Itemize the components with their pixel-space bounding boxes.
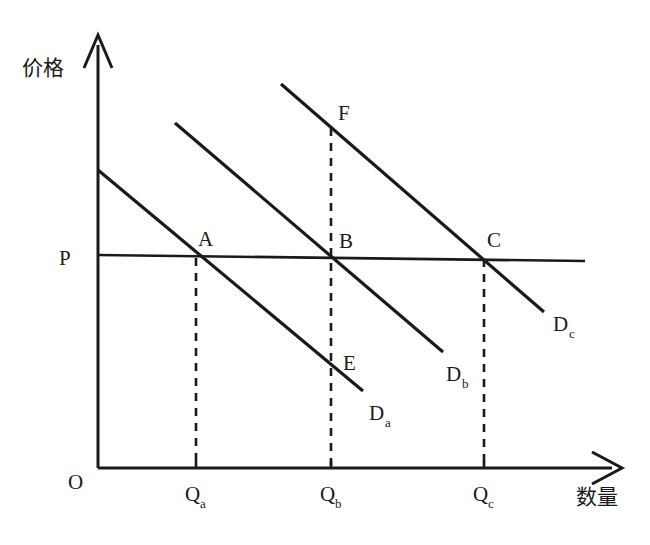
y-axis-label: 价格 [22,56,64,80]
tick-label-qb-base: Q [320,482,335,506]
tick-label-qb: Q b [320,482,342,511]
tick-label-qa: Q a [185,482,206,511]
demand-curve-group [98,84,544,391]
demand-curve-da [98,170,363,391]
point-label-e: E [343,351,356,375]
curve-label-dc-base: D [553,312,568,336]
tick-label-qb-subscript: b [335,496,342,511]
curve-label-dc: D c [553,312,575,341]
demand-curve-db [175,123,443,352]
point-label-f: F [338,101,350,125]
point-label-b: B [339,229,353,253]
demand-curve-dc [281,84,544,312]
curve-label-db-base: D [446,362,461,386]
chart-canvas: 价格 数量 O P Q a Q b Q c A B C E F D a D b [0,0,650,545]
point-label-c: C [487,228,501,252]
curve-label-db-subscript: b [462,376,469,391]
demand-curve-diagram: 价格 数量 O P Q a Q b Q c A B C E F D a D b [0,0,650,545]
curve-label-dc-subscript: c [569,326,575,341]
tick-label-qa-subscript: a [200,496,206,511]
price-level-label: P [59,246,71,270]
price-level-line [98,255,585,261]
tick-label-qc-subscript: c [488,496,494,511]
tick-label-qc: Q c [473,482,494,511]
curve-label-da-base: D [369,401,384,425]
tick-label-qa-base: Q [185,482,200,506]
tick-label-qc-base: Q [473,482,488,506]
x-axis-label: 数量 [576,485,618,509]
origin-label: O [68,470,83,494]
curve-label-da-subscript: a [385,415,391,430]
point-label-a: A [198,227,214,251]
curve-label-db: D b [446,362,469,391]
curve-label-da: D a [369,401,391,430]
